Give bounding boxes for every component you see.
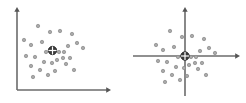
scatter-point [180, 35, 183, 38]
scatter-point [170, 73, 173, 76]
scatter-point [194, 55, 197, 58]
panel-centered-coordinates [123, 0, 246, 103]
scatter-point [68, 56, 71, 59]
scatter-point [38, 68, 41, 71]
scatter-point [40, 40, 43, 43]
scatter-point [58, 29, 61, 32]
scatter-point [57, 50, 60, 53]
panel-original-coordinates [0, 0, 123, 103]
scatter-point [207, 46, 210, 49]
scatter-point [168, 29, 171, 32]
scatter-point [42, 60, 45, 63]
plot-original-svg [0, 0, 123, 103]
scatter-point [187, 63, 190, 66]
scatter-point [161, 48, 164, 51]
scatter-point [50, 61, 53, 64]
scatter-point [81, 46, 84, 49]
scatter-point [176, 55, 179, 58]
scatter-point [24, 54, 27, 57]
axes-centered [133, 7, 240, 96]
y-axis-arrowhead [14, 7, 19, 12]
scatter-point [46, 73, 49, 76]
scatter-point [213, 51, 216, 54]
scatter-point [44, 50, 47, 53]
scatter-point [190, 34, 193, 37]
scatter-point [178, 78, 181, 81]
scatter-point [70, 32, 73, 35]
y-axis-arrowhead [182, 7, 187, 12]
scatter-point [198, 49, 201, 52]
scatter-point [185, 74, 188, 77]
scatter-point [174, 65, 177, 68]
x-axis-arrowhead [106, 87, 111, 92]
scatter-point [193, 61, 196, 64]
scatter-point [36, 24, 39, 27]
scatter-point [189, 55, 192, 58]
scatter-point [55, 58, 58, 61]
scatter-point [53, 69, 56, 72]
scatter-point [202, 37, 205, 40]
plot-centered-svg [123, 0, 246, 103]
scatter-point [62, 50, 65, 53]
scatter-point [48, 30, 51, 33]
scatter-point [72, 68, 75, 71]
scatter-point [200, 61, 203, 64]
scatter-point [29, 43, 32, 46]
scatter-point [31, 75, 34, 78]
scatter-point [64, 62, 67, 65]
scatter-point [66, 44, 69, 47]
scatter-point [182, 66, 185, 69]
scatter-centering-diagram [0, 0, 246, 103]
scatter-point [196, 67, 199, 70]
scatter-point [61, 56, 64, 59]
centroid-marker-centered [181, 52, 189, 60]
scatter-point [204, 73, 207, 76]
scatter-point [172, 45, 175, 48]
scatter-point [156, 59, 159, 62]
scatter-point [33, 55, 36, 58]
scatter-point [29, 64, 32, 67]
x-axis-arrowhead [235, 53, 240, 58]
axes-original [14, 7, 111, 93]
scatter-point [161, 69, 164, 72]
scatter-point [75, 41, 78, 44]
centroid-marker-original [48, 46, 56, 54]
scatter-point [22, 38, 25, 41]
scatter-point [154, 43, 157, 46]
scatter-point [165, 60, 168, 63]
scatter-point [163, 80, 166, 83]
